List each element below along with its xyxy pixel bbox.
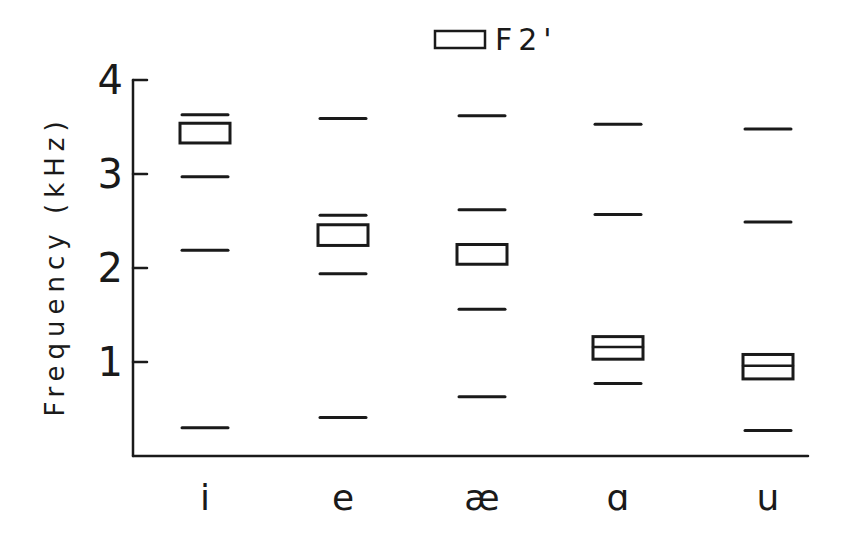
legend-label: F2'	[495, 22, 558, 57]
axes	[133, 80, 808, 456]
f2-prime-box	[180, 123, 230, 143]
y-tick-label: 4	[98, 57, 123, 103]
f2-prime-box	[457, 245, 507, 265]
y-axis-label: Frequency (kHz)	[40, 115, 70, 416]
x-tick-labels: ieæɑu	[200, 477, 779, 518]
x-tick-label: e	[332, 477, 354, 518]
x-tick-label: ɑ	[607, 477, 630, 518]
y-tick-label: 2	[98, 245, 123, 291]
formant-chart: 1234 ieæɑu Frequency (kHz) F2'	[0, 0, 846, 543]
legend-box-icon	[435, 31, 485, 48]
y-tick-label: 1	[98, 339, 123, 385]
y-tick-label: 3	[98, 151, 123, 197]
x-tick-label: æ	[464, 477, 499, 518]
data-marks	[180, 115, 793, 431]
f2-prime-box	[318, 225, 368, 246]
y-ticks: 1234	[98, 57, 147, 385]
legend: F2'	[435, 22, 558, 57]
x-tick-label: i	[200, 477, 210, 518]
x-tick-label: u	[757, 477, 780, 518]
